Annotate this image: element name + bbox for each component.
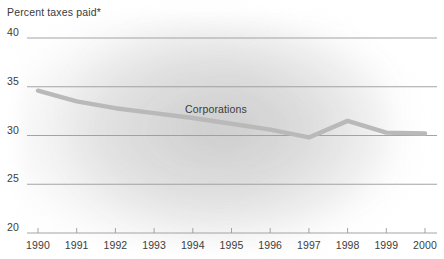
x-axis-tick-label: 1990 — [26, 239, 50, 251]
y-axis-tick-label: 35 — [7, 75, 19, 87]
x-axis-tick-label: 1999 — [374, 239, 398, 251]
x-axis-tick-label: 1991 — [65, 239, 89, 251]
x-axis-tick-label: 2000 — [413, 239, 437, 251]
y-axis-tick-label: 20 — [7, 221, 19, 233]
x-axis-tick-label: 1992 — [104, 239, 128, 251]
x-axis-tick-label: 1993 — [142, 239, 166, 251]
series-inline-label: Corporations — [185, 103, 247, 115]
y-axis-tick-label: 40 — [7, 26, 19, 38]
x-axis-tick-label: 1996 — [258, 239, 282, 251]
x-axis-ticks — [38, 228, 425, 233]
chart-figure: Percent taxes paid* 2025303540 199019911… — [0, 0, 444, 259]
x-axis-tick-label: 1994 — [181, 239, 205, 251]
x-axis-tick-label: 1997 — [297, 239, 321, 251]
plot-area — [0, 0, 444, 259]
y-axis-tick-label: 30 — [7, 124, 19, 136]
y-axis-tick-label: 25 — [7, 172, 19, 184]
x-axis-tick-label: 1995 — [220, 239, 244, 251]
x-axis-tick-label: 1998 — [336, 239, 360, 251]
gridlines — [27, 38, 437, 233]
